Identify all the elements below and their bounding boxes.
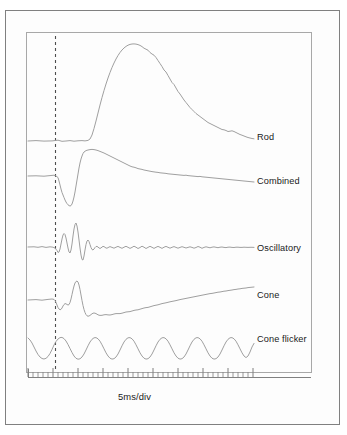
trace-oscillatory bbox=[28, 223, 254, 260]
trace-combined bbox=[28, 149, 254, 206]
trace-label-rod: Rod bbox=[257, 133, 274, 142]
trace-rod bbox=[28, 44, 254, 141]
time-axis-caption: 5ms/div bbox=[118, 391, 151, 402]
erg-plot-canvas bbox=[0, 0, 347, 435]
plot-frame bbox=[27, 33, 312, 373]
trace-label-cone: Cone bbox=[257, 291, 279, 300]
trace-cone-flicker bbox=[28, 337, 254, 359]
trace-label-cone-flicker: Cone flicker bbox=[257, 335, 307, 344]
erg-figure: Rod Combined Oscillatory Cone Cone flick… bbox=[0, 0, 347, 435]
trace-cone bbox=[28, 281, 254, 316]
trace-label-oscillatory: Oscillatory bbox=[257, 244, 301, 253]
waveform-traces bbox=[28, 44, 254, 359]
trace-label-combined: Combined bbox=[257, 177, 300, 186]
